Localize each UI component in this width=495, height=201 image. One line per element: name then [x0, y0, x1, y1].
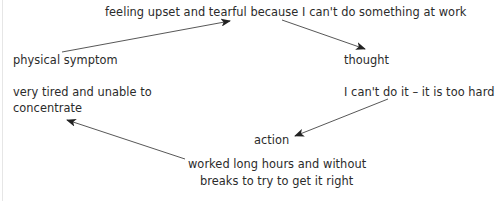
- arrow-physical-to-feeling: [62, 21, 230, 52]
- cycle-arrows: [0, 0, 495, 201]
- arrow-thought-to-action: [295, 99, 388, 136]
- arrow-action-to-physical: [67, 120, 185, 159]
- arrow-feeling-to-thought: [282, 20, 365, 49]
